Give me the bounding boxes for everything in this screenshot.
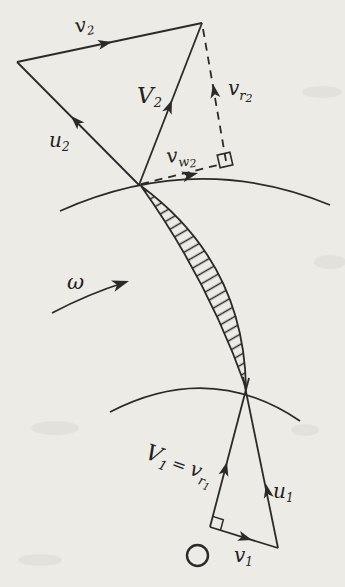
scanned-figure-page: v2 u2 V2 vr2 vw2 ω V1=vr1 u1 v1 (0, 0, 345, 587)
velocity-triangle-diagram: v2 u2 V2 vr2 vw2 ω V1=vr1 u1 v1 (0, 0, 345, 587)
omega-label: ω (67, 270, 84, 294)
